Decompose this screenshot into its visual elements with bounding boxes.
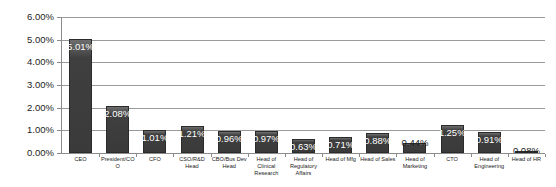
bar-data-label: 0.63% bbox=[290, 141, 317, 152]
bar-slot: 0.71% bbox=[329, 17, 352, 153]
bar-chart: 0.00%1.00%2.00%3.00%4.00%5.00%6.00% 5.01… bbox=[0, 0, 556, 187]
x-axis-category-label: CBO/Bus Dev Head bbox=[211, 156, 248, 170]
bar-slot: 0.63% bbox=[292, 17, 315, 153]
x-axis-category-labels: CEOPresident/COOCFOCSO/R&D HeadCBO/Bus D… bbox=[62, 156, 545, 187]
x-axis-category-label: Head of Marketing bbox=[396, 156, 433, 170]
bar-slot: 5.01% bbox=[69, 17, 92, 153]
x-axis-category-label: Head of Clinical Research bbox=[248, 156, 285, 178]
y-axis-tick-mark bbox=[57, 17, 62, 18]
bars-layer: 5.01%2.08%1.01%1.21%0.96%0.97%0.63%0.71%… bbox=[62, 17, 545, 153]
bar-data-label: 0.91% bbox=[476, 134, 503, 145]
x-axis-tick-mark bbox=[99, 154, 100, 157]
y-axis-tick-label: 4.00% bbox=[6, 57, 54, 67]
x-axis-tick-mark bbox=[359, 154, 360, 157]
x-axis-tick-mark bbox=[471, 154, 472, 157]
x-axis-tick-mark bbox=[285, 154, 286, 157]
bar-slot: 2.08% bbox=[106, 17, 129, 153]
x-axis-line bbox=[61, 153, 545, 154]
y-axis-tick-mark bbox=[57, 40, 62, 41]
bar-data-label: 0.96% bbox=[216, 133, 243, 144]
y-axis-tick-label: 3.00% bbox=[6, 80, 54, 90]
bar-slot: 1.21% bbox=[181, 17, 204, 153]
x-axis-category-label: Head of Engineering bbox=[471, 156, 508, 170]
x-axis-tick-mark bbox=[508, 154, 509, 157]
y-axis-tick-mark bbox=[57, 153, 62, 154]
x-axis-category-label: Head of HR bbox=[508, 156, 545, 163]
bar-data-label: 0.97% bbox=[253, 133, 280, 144]
y-axis-tick-mark bbox=[57, 85, 62, 86]
y-axis-tick-mark bbox=[57, 62, 62, 63]
x-axis-category-label: CEO bbox=[62, 156, 99, 163]
bar-slot: 1.25% bbox=[441, 17, 464, 153]
bar-data-label: 2.08% bbox=[104, 108, 131, 119]
x-axis-category-label: Head of Regulatory Affairs bbox=[285, 156, 322, 178]
y-axis-tick-mark bbox=[57, 108, 62, 109]
bar-data-label: 1.21% bbox=[179, 128, 206, 139]
y-axis-tick-mark bbox=[57, 130, 62, 131]
y-axis-tick-label: 6.00% bbox=[6, 12, 54, 22]
y-axis-tick-label: 5.00% bbox=[6, 35, 54, 45]
y-axis-tick-label: 1.00% bbox=[6, 125, 54, 135]
bar-data-label: 0.71% bbox=[327, 139, 354, 150]
x-axis-tick-mark bbox=[545, 154, 546, 157]
bar-data-label: 0.08% bbox=[513, 145, 540, 156]
bar-slot: 0.88% bbox=[366, 17, 389, 153]
y-axis-tick-label: 0.00% bbox=[6, 148, 54, 158]
bar-data-label: 1.25% bbox=[439, 127, 466, 138]
bar-data-label: 0.88% bbox=[364, 135, 391, 146]
x-axis-tick-mark bbox=[248, 154, 249, 157]
x-axis-tick-mark bbox=[136, 154, 137, 157]
bar[interactable] bbox=[69, 39, 92, 153]
x-axis-category-label: Head of Mfg bbox=[322, 156, 359, 163]
x-axis-tick-mark bbox=[173, 154, 174, 157]
bar-slot: 0.96% bbox=[218, 17, 241, 153]
bar-slot: 1.01% bbox=[143, 17, 166, 153]
x-axis-tick-mark bbox=[322, 154, 323, 157]
bar-data-label: 0.44% bbox=[401, 137, 428, 148]
y-axis-tick-label: 2.00% bbox=[6, 103, 54, 113]
bar-data-label: 5.01% bbox=[67, 41, 94, 52]
x-axis-tick-mark bbox=[434, 154, 435, 157]
x-axis-tick-mark bbox=[211, 154, 212, 157]
bar-data-label: 1.01% bbox=[141, 132, 168, 143]
x-axis-category-label: Head of Sales bbox=[359, 156, 396, 163]
x-axis-category-label: CFO bbox=[136, 156, 173, 163]
x-axis-category-label: President/COO bbox=[99, 156, 136, 170]
x-axis-tick-mark bbox=[396, 154, 397, 157]
x-axis-category-label: CTO bbox=[434, 156, 471, 163]
y-axis: 0.00%1.00%2.00%3.00%4.00%5.00%6.00% bbox=[0, 0, 54, 187]
bar-slot: 0.97% bbox=[255, 17, 278, 153]
x-axis-category-label: CSO/R&D Head bbox=[173, 156, 210, 170]
bar-slot: 0.44% bbox=[403, 17, 426, 153]
bar-slot: 0.08% bbox=[515, 17, 538, 153]
bar-slot: 0.91% bbox=[478, 17, 501, 153]
